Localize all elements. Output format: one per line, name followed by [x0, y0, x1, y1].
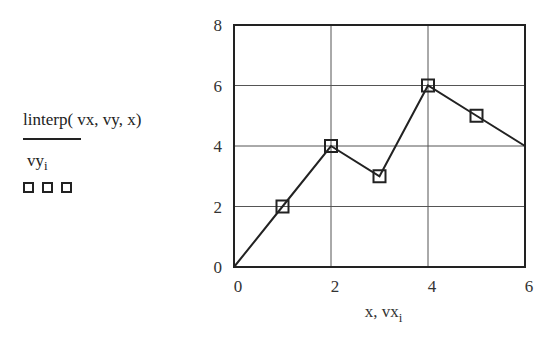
x-tick-label: 2 — [331, 277, 340, 296]
y-tick-label: 6 — [214, 77, 223, 96]
x-axis-label: x, vxi — [365, 302, 403, 325]
y-tick-label: 0 — [214, 258, 223, 277]
chart-plot: 024602468x, vxi — [0, 0, 554, 341]
x-tick-label: 6 — [525, 277, 534, 296]
x-tick-label: 4 — [428, 277, 437, 296]
series-line-linterp — [234, 86, 525, 268]
y-tick-label: 8 — [214, 16, 223, 35]
y-tick-label: 4 — [214, 137, 223, 156]
y-tick-label: 2 — [214, 198, 223, 217]
x-tick-label: 0 — [234, 277, 243, 296]
